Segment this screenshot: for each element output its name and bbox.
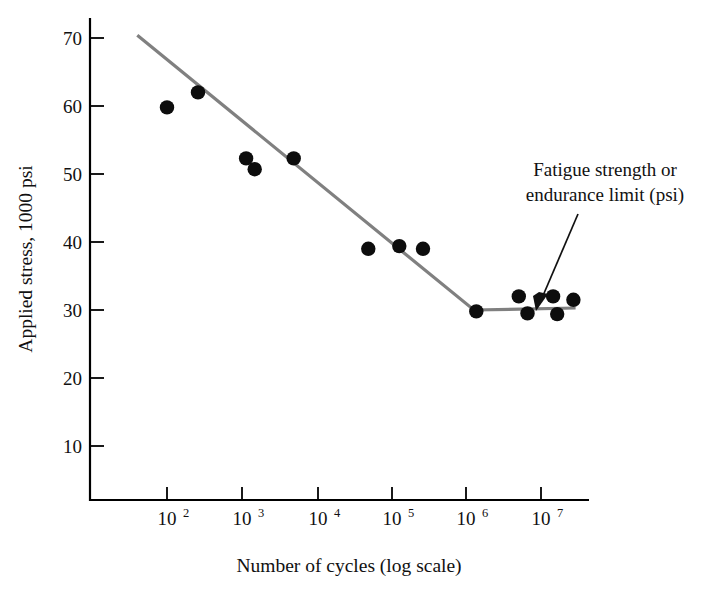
- data-point: [469, 304, 483, 318]
- y-tick-label-70: 70: [63, 28, 82, 49]
- x-tick-exponent-1e6: 6: [482, 506, 488, 520]
- y-tick-label-50: 50: [63, 164, 82, 185]
- axes-group: [89, 18, 589, 501]
- annotation-line-1: Fatigue strength or: [533, 159, 677, 180]
- x-axis-ticks: 10 2 10 3 10 4 10 5 10 6 10 7: [158, 487, 564, 529]
- y-axis-ticks: 70 60 50 40 30 20 10: [63, 28, 104, 457]
- data-point: [546, 289, 560, 303]
- x-tick-label-1e7: 10: [532, 508, 551, 529]
- data-point: [566, 293, 580, 307]
- data-point: [287, 151, 301, 165]
- x-tick-label-1e3: 10: [233, 508, 252, 529]
- data-point: [392, 239, 406, 253]
- y-axis-title: Applied stress, 1000 psi: [15, 165, 36, 353]
- y-tick-label-40: 40: [63, 232, 82, 253]
- x-tick-exponent-1e5: 5: [408, 506, 414, 520]
- data-point: [416, 242, 430, 256]
- y-tick-label-20: 20: [63, 368, 82, 389]
- chart-canvas: 70 60 50 40 30 20 10 10 2 10 3 10 4: [0, 0, 710, 604]
- data-point: [361, 242, 375, 256]
- data-point: [520, 306, 534, 320]
- y-tick-label-60: 60: [63, 96, 82, 117]
- data-point: [160, 100, 174, 114]
- endurance-limit-annotation: Fatigue strength or endurance limit (psi…: [526, 159, 684, 311]
- x-tick-label-1e6: 10: [457, 508, 476, 529]
- annotation-line-2: endurance limit (psi): [526, 184, 684, 206]
- data-point: [248, 162, 262, 176]
- sn-curve-fit-line: [137, 35, 575, 310]
- data-point: [550, 307, 564, 321]
- fatigue-sn-chart: 70 60 50 40 30 20 10 10 2 10 3 10 4: [0, 0, 710, 604]
- data-points-group: [160, 85, 581, 321]
- x-tick-label-1e5: 10: [383, 508, 402, 529]
- x-tick-label-1e4: 10: [309, 508, 328, 529]
- x-tick-exponent-1e3: 3: [258, 506, 264, 520]
- x-tick-exponent-1e4: 4: [334, 506, 341, 520]
- data-point: [512, 289, 526, 303]
- x-tick-label-1e2: 10: [158, 508, 177, 529]
- x-tick-exponent-1e7: 7: [557, 506, 563, 520]
- x-axis-title: Number of cycles (log scale): [236, 555, 461, 577]
- x-tick-exponent-1e2: 2: [183, 506, 189, 520]
- y-tick-label-30: 30: [63, 300, 82, 321]
- y-tick-label-10: 10: [63, 436, 82, 457]
- data-point: [191, 85, 205, 99]
- annotation-leader-line: [542, 214, 578, 298]
